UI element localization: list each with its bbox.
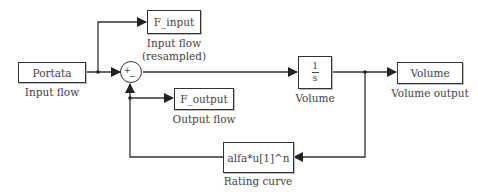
portata-block-text: Portata bbox=[33, 67, 72, 79]
integrator-denominator: s bbox=[313, 74, 318, 83]
f-input-block-text: F_input bbox=[154, 16, 194, 28]
junction-dot-volume bbox=[363, 70, 367, 74]
volume-block[interactable]: Volume bbox=[397, 62, 463, 84]
volume-caption: Volume output bbox=[391, 87, 469, 100]
f-input-caption-line2: (resampled) bbox=[142, 50, 206, 63]
f-input-block[interactable]: F_input bbox=[147, 10, 201, 34]
integrator-fraction: 1 s bbox=[312, 62, 319, 83]
f-input-caption-line1: Input flow bbox=[147, 37, 201, 50]
integrator-caption: Volume bbox=[295, 92, 334, 105]
f-output-caption: Output flow bbox=[173, 113, 236, 126]
integrator-block[interactable]: 1 s bbox=[298, 56, 332, 89]
portata-caption: Input flow bbox=[25, 86, 79, 99]
volume-block-text: Volume bbox=[410, 67, 449, 79]
sum-block[interactable]: + − bbox=[120, 61, 142, 83]
sum-minus-sign: − bbox=[129, 72, 136, 81]
rating-curve-block-text: alfa*u[1]^n bbox=[227, 152, 289, 164]
integrator-numerator: 1 bbox=[312, 62, 318, 71]
f-output-block-text: F_output bbox=[180, 93, 228, 105]
f-output-block[interactable]: F_output bbox=[174, 88, 234, 110]
portata-block[interactable]: Portata bbox=[18, 62, 86, 83]
junction-dot-output bbox=[128, 96, 132, 100]
rating-curve-caption: Rating curve bbox=[224, 175, 293, 188]
junction-dot-input bbox=[96, 70, 100, 74]
rating-curve-block[interactable]: alfa*u[1]^n bbox=[223, 142, 294, 173]
